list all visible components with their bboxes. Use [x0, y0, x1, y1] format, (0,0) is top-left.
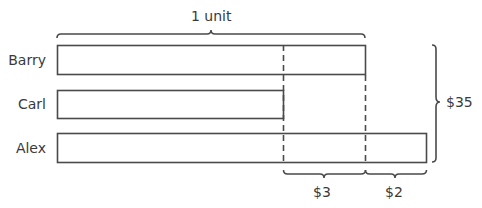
top-brace-label: 1 unit — [191, 8, 231, 24]
top-brace — [57, 30, 365, 38]
segment-label-2: $2 — [385, 184, 403, 200]
total-brace — [432, 45, 440, 162]
segment-label-3: $3 — [313, 184, 331, 200]
bar-alex — [58, 134, 427, 163]
bar-barry — [58, 46, 366, 75]
bar-label-alex: Alex — [0, 140, 46, 156]
bar-label-carl: Carl — [0, 96, 46, 112]
segment-brace-3 — [284, 170, 366, 178]
bar-model-diagram — [0, 0, 482, 208]
bar-label-barry: Barry — [0, 52, 46, 68]
total-label: $35 — [446, 94, 473, 110]
bar-carl — [58, 91, 284, 119]
segment-brace-2 — [366, 170, 427, 178]
